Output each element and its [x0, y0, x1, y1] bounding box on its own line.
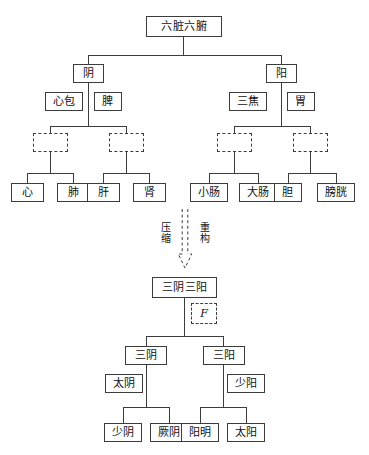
connector-bottom-bus-right [223, 336, 224, 346]
diagram-canvas: 六脏六腑 阴 阳 心包 脾 三焦 胃 心 肺 肝 肾 [0, 0, 369, 455]
connector-bottomroot-stem [184, 298, 185, 336]
connector-group3-stem [234, 152, 235, 173]
node-taiyin: 太阴 [105, 374, 143, 393]
transform-label-compress: 压缩 [160, 222, 171, 244]
connector-root-stem [183, 37, 184, 55]
connector-bottom-leafbus-left-l [123, 407, 124, 423]
connector-yang-bus [234, 126, 311, 127]
node-yin: 阴 [73, 64, 104, 83]
connector-leafbus-3-left [209, 173, 210, 183]
connector-sanyin-stem [146, 365, 147, 407]
connector-leafbus-1-right [73, 173, 74, 183]
connector-leafbus-1-left [27, 173, 28, 183]
node-sanjiao: 三焦 [229, 92, 267, 111]
node-hidden-group-1 [33, 133, 68, 152]
connector-bottom-leafbus-right-l [200, 407, 201, 423]
connector-leafbus-1 [27, 173, 74, 174]
node-gan: 肝 [87, 183, 120, 202]
node-hidden-group-2 [109, 133, 144, 152]
node-function-f: F [191, 303, 217, 324]
node-pangguang: 膀胱 [317, 183, 355, 202]
connector-leafbus-3-right [258, 173, 259, 183]
connector-drop-yang [281, 55, 282, 64]
connector-bottom-leafbus-left [123, 407, 170, 408]
connector-bottom-leafbus-left-r [169, 407, 170, 423]
connector-yin-stem [88, 83, 89, 126]
connector-sanyang-stem [223, 365, 224, 407]
node-xin: 心 [11, 183, 44, 202]
connector-yin-bus-right [126, 126, 127, 133]
node-root-bottom: 三阴三阳 [152, 277, 217, 298]
connector-bottom-bus-left [146, 336, 147, 346]
node-hidden-group-3 [217, 133, 252, 152]
node-shaoyang: 少阳 [227, 374, 265, 393]
connector-leafbus-2-right [149, 173, 150, 183]
connector-group4-stem [310, 152, 311, 173]
connector-yin-bus-left [50, 126, 51, 133]
node-pi: 脾 [94, 92, 122, 111]
connector-yang-stem [281, 83, 282, 126]
node-dachang: 大肠 [239, 183, 277, 202]
connector-bottom-bus [146, 336, 224, 337]
connector-yang-bus-right [310, 126, 311, 133]
connector-leafbus-2-left [103, 173, 104, 183]
node-xinbao: 心包 [45, 92, 83, 111]
connector-group2-stem [126, 152, 127, 173]
connector-yang-bus-left [234, 126, 235, 133]
connector-bottom-leafbus-right [200, 407, 247, 408]
node-xiaochang: 小肠 [190, 183, 228, 202]
node-shaoyin: 少阴 [104, 423, 142, 442]
connector-group1-stem [50, 152, 51, 173]
node-hidden-group-4 [293, 133, 328, 152]
connector-leafbus-4 [288, 173, 337, 174]
node-taiyang: 太阳 [227, 423, 265, 442]
transform-arrow-icon [175, 208, 195, 270]
connector-leafbus-3 [209, 173, 259, 174]
node-root-top: 六脏六腑 [146, 16, 222, 37]
transform-label-reconstruct: 重构 [199, 222, 210, 244]
connector-leafbus-4-right [336, 173, 337, 183]
connector-bottom-leafbus-right-r [246, 407, 247, 423]
node-dan: 胆 [274, 183, 302, 202]
node-sanyin: 三阴 [125, 346, 167, 365]
node-sanyang: 三阳 [203, 346, 245, 365]
connector-leafbus-4-left [288, 173, 289, 183]
connector-root-bus [88, 55, 282, 56]
connector-drop-yin [88, 55, 89, 64]
node-yang: 阳 [266, 64, 297, 83]
node-shen: 肾 [133, 183, 166, 202]
node-wei: 胃 [287, 92, 315, 111]
node-fei: 肺 [57, 183, 90, 202]
connector-yin-bus [50, 126, 127, 127]
node-yangming: 阳明 [181, 423, 219, 442]
connector-leafbus-2 [103, 173, 150, 174]
